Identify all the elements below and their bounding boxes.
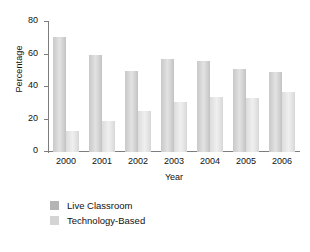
bar [102, 121, 115, 152]
bar [66, 131, 79, 152]
bar [210, 97, 223, 152]
y-tick-label: 0 [18, 145, 38, 155]
y-tick-label: 20 [18, 113, 38, 123]
y-tick-label: 80 [18, 15, 38, 25]
bar-group [264, 22, 300, 152]
legend-swatch [50, 201, 59, 210]
bar [269, 72, 282, 152]
bar [174, 102, 187, 152]
bar [197, 61, 210, 152]
bar-group [156, 22, 192, 152]
x-axis-title: Year [48, 172, 300, 182]
bar-group [120, 22, 156, 152]
bar [125, 71, 138, 152]
bar [138, 111, 151, 152]
plot-area: 020406080 [48, 22, 300, 152]
y-tick-label: 60 [18, 48, 38, 58]
legend-label: Technology-Based [67, 215, 145, 226]
x-tick-label: 2003 [156, 156, 192, 166]
bar [246, 98, 259, 152]
legend-swatch [50, 216, 59, 225]
x-tick-label: 2000 [48, 156, 84, 166]
x-tick-label: 2002 [120, 156, 156, 166]
bar-groups [48, 22, 300, 152]
legend-item: Live Classroom [50, 198, 145, 213]
y-tick-label: 40 [18, 80, 38, 90]
bar [53, 37, 66, 152]
chart-legend: Live ClassroomTechnology-Based [50, 198, 145, 228]
bar-group [192, 22, 228, 152]
bar [161, 59, 174, 152]
bar-group [228, 22, 264, 152]
bar [233, 69, 246, 152]
bar [282, 92, 295, 152]
bar [89, 55, 102, 153]
x-tick-label: 2006 [264, 156, 300, 166]
legend-item: Technology-Based [50, 213, 145, 228]
bar-group [84, 22, 120, 152]
bar-chart-figure: Percentage 020406080 2000200120022003200… [0, 0, 310, 252]
y-axis-title: Percentage [14, 24, 24, 114]
bar-group [48, 22, 84, 152]
legend-label: Live Classroom [67, 200, 132, 211]
x-tick-label: 2001 [84, 156, 120, 166]
x-tick-label: 2004 [192, 156, 228, 166]
x-tick-label: 2005 [228, 156, 264, 166]
x-axis-tick-labels: 2000200120022003200420052006 [48, 156, 300, 166]
